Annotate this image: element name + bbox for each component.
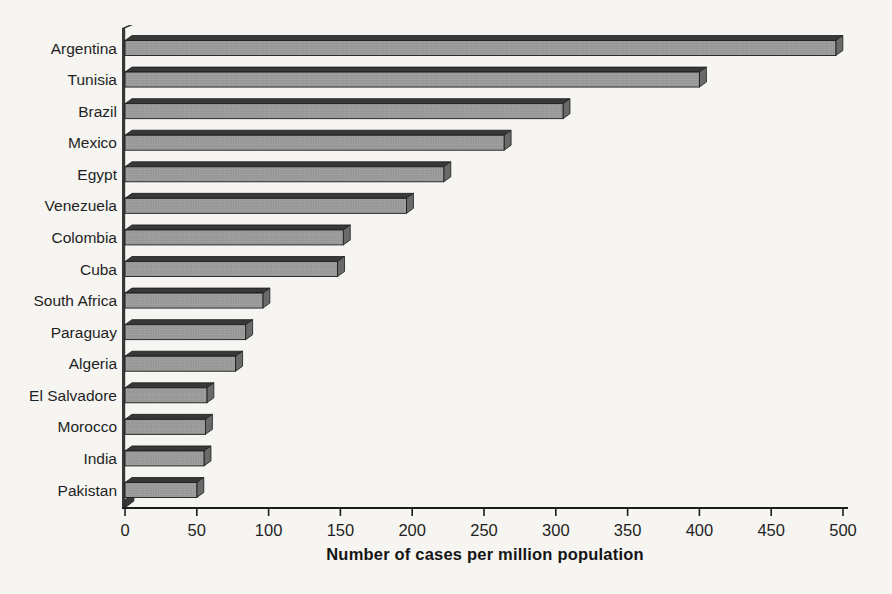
category-label: Cuba [80, 261, 117, 278]
bar-row-cuba: Cuba [80, 257, 345, 278]
bar-top-face [125, 320, 253, 325]
bar [125, 451, 204, 466]
bar [125, 41, 836, 56]
bar-top-face [125, 99, 570, 104]
x-tick-label: 0 [120, 521, 129, 539]
x-tick-label: 100 [255, 521, 283, 539]
x-axis-title: Number of cases per million population [125, 545, 845, 564]
category-label: Brazil [78, 103, 117, 120]
bar-row-south-africa: South Africa [33, 288, 269, 309]
x-tick-label: 200 [398, 521, 426, 539]
category-label: Algeria [69, 355, 118, 372]
bar-row-morocco: Morocco [58, 414, 213, 435]
category-label: Paraguay [51, 324, 118, 341]
bar [125, 293, 263, 308]
bar-top-face [125, 162, 451, 167]
bar-top-face [125, 257, 345, 262]
category-label: El Salvadore [29, 387, 117, 404]
category-label: Venezuela [45, 197, 118, 214]
bar-row-venezuela: Venezuela [45, 193, 414, 214]
x-tick-label: 50 [188, 521, 206, 539]
bar [125, 135, 504, 150]
x-tick-label: 300 [542, 521, 570, 539]
bar [125, 262, 338, 277]
x-tick-label: 400 [686, 521, 714, 539]
x-tick-label: 350 [614, 521, 642, 539]
bar [125, 230, 343, 245]
category-label: Tunisia [68, 71, 118, 88]
bar-top-face [125, 225, 350, 230]
bar [125, 104, 563, 119]
bar-row-brazil: Brazil [78, 99, 570, 120]
x-tick-label: 150 [327, 521, 355, 539]
bar-top-face [125, 36, 843, 41]
category-label: Pakistan [58, 482, 117, 499]
bar-row-el-salvadore: El Salvadore [29, 383, 214, 404]
bar-row-colombia: Colombia [52, 225, 351, 246]
category-label: South Africa [33, 292, 117, 309]
bar-row-argentina: Argentina [51, 36, 843, 57]
category-label: Mexico [68, 134, 117, 151]
category-label: India [83, 450, 117, 467]
bar-row-algeria: Algeria [69, 351, 243, 372]
bar-row-india: India [83, 446, 211, 467]
bar [125, 167, 444, 182]
bar [125, 419, 205, 434]
bar-row-tunisia: Tunisia [68, 67, 707, 88]
bar-top-face [125, 130, 511, 135]
bar [125, 356, 236, 371]
bar [125, 483, 197, 498]
bar-top-face [125, 351, 243, 356]
bar-row-egypt: Egypt [77, 162, 450, 183]
bar [125, 72, 699, 87]
bar-top-face [125, 67, 706, 72]
y-axis-wall-top [122, 25, 133, 28]
chart-canvas: ArgentinaTunisiaBrazilMexicoEgyptVenezue… [0, 0, 892, 594]
category-label: Egypt [77, 166, 117, 183]
bar [125, 198, 406, 213]
bar-top-face [125, 478, 204, 483]
category-label: Morocco [58, 418, 117, 435]
x-tick-label: 250 [470, 521, 498, 539]
bar-top-face [125, 414, 212, 419]
bar-row-paraguay: Paraguay [51, 320, 253, 341]
category-label: Argentina [51, 40, 118, 57]
bar-top-face [125, 383, 214, 388]
x-tick-label: 450 [757, 521, 785, 539]
bar-top-face [125, 446, 211, 451]
bar [125, 325, 246, 340]
bar-row-mexico: Mexico [68, 130, 511, 151]
bar-top-face [125, 193, 413, 198]
category-label: Colombia [52, 229, 118, 246]
bar-chart: ArgentinaTunisiaBrazilMexicoEgyptVenezue… [0, 0, 892, 594]
x-tick-label: 500 [829, 521, 857, 539]
bar-top-face [125, 288, 270, 293]
bar-row-pakistan: Pakistan [58, 478, 204, 499]
bar [125, 388, 207, 403]
